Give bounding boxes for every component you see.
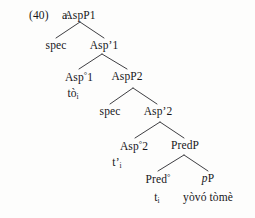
- branch-aspbar2-to-asphead2: [135, 122, 160, 138]
- example-number: (40): [29, 10, 49, 22]
- tree-branch-lines: [0, 0, 255, 218]
- node-asp-bar-2: Asp’2: [144, 106, 173, 118]
- node-aspp2: AspP2: [111, 71, 142, 83]
- node-spec1: spec: [46, 40, 67, 52]
- lexical-item-to-index: i: [77, 92, 79, 101]
- branch-aspp2-to-aspbar2: [133, 88, 157, 104]
- node-spec2: spec: [100, 106, 121, 118]
- node-pp: pP: [202, 173, 214, 185]
- branch-aspbar1-to-asphead1: [79, 54, 102, 69]
- node-pp-big-p: P: [208, 172, 215, 184]
- trace-pred: ti: [154, 192, 159, 205]
- branch-predp-to-pp: [184, 155, 208, 171]
- trace-asp2-index: i: [120, 161, 122, 170]
- node-asp-bar-1: Asp’1: [90, 40, 119, 52]
- trace-asp2: t’i: [112, 157, 121, 170]
- branch-aspbar1-to-aspp2: [102, 54, 127, 69]
- branch-root-to-aspbar1: [80, 22, 104, 38]
- node-asp-head-2-text: Asp: [120, 140, 139, 152]
- branch-root-to-spec1: [56, 22, 80, 38]
- node-asp-head-1-text: Asp: [65, 71, 84, 83]
- lexical-item-to-text: tò: [67, 87, 76, 99]
- trace-pred-index: i: [158, 196, 160, 205]
- pp-content-text: yòvó tòmè: [183, 192, 233, 204]
- node-pred-head-text: Pred: [146, 173, 167, 185]
- degree-icon-3: °: [167, 172, 171, 182]
- node-asp-head-1-number: 1: [87, 71, 93, 83]
- lexical-item-to: tòi: [67, 88, 78, 101]
- node-asp-head-2: Asp°2: [120, 140, 148, 153]
- branch-aspbar2-to-predp: [160, 122, 184, 138]
- node-pred-head: Pred°: [146, 173, 171, 186]
- node-asp-head-2-number: 2: [142, 140, 148, 152]
- syntax-tree-figure: (40) a. AspP1 spec Asp’1 Asp°1 AspP2 tòi…: [0, 0, 255, 218]
- node-asp-head-1: Asp°1: [65, 71, 93, 84]
- branch-predp-to-predhead: [158, 155, 184, 171]
- node-predp: PredP: [171, 140, 199, 152]
- node-aspp1: AspP1: [64, 10, 95, 22]
- branch-aspp2-to-spec2: [110, 88, 133, 104]
